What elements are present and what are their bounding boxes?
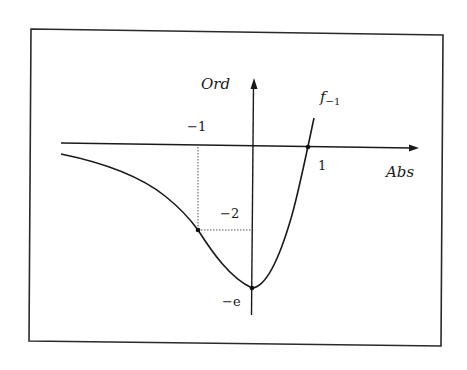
function-plot: Ord Abs f−1 −1 1 −2 −e [0,0,467,370]
series-label-sub: −1 [326,96,341,107]
y-axis-arrow-icon [251,78,258,89]
x-axis-arrow-icon [409,145,419,152]
tick-label-y-minus-e: −e [222,294,241,309]
tick-label-y-minus2: −2 [220,206,239,221]
point-minimum [250,286,255,291]
x-axis-label: Abs [384,163,414,181]
y-axis [252,85,254,315]
x-axis [61,143,412,148]
tick-label-x-minus1: −1 [187,119,206,134]
tick-label-x-1: 1 [318,158,326,173]
point-root [306,145,311,150]
series-label: f−1 [319,88,340,107]
y-axis-label: Ord [201,75,230,93]
point-minus1-minus2 [196,228,201,233]
